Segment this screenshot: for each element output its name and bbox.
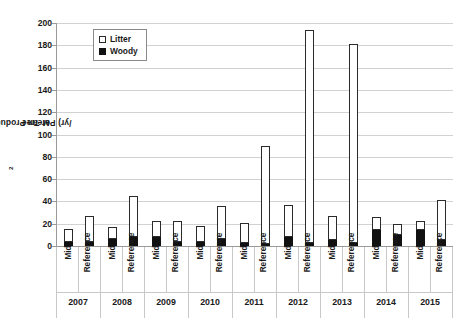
group-separator — [320, 247, 321, 292]
bar-segment-litter — [416, 221, 425, 230]
y-tick-label-20: 20 — [26, 219, 52, 228]
legend-item-litter: Litter — [99, 33, 138, 45]
subcategory-label-2008-mid: Mid — [101, 248, 123, 292]
bar-segment-woody — [372, 230, 381, 246]
y-axis-title: Mean Productivity (g/m2/yr) Per Tree — [2, 0, 24, 246]
chart-container: Mean Productivity (g/m2/yr) Per Tree 020… — [0, 0, 465, 334]
bar-2014-mid — [372, 217, 381, 246]
subcategory-label-text: Reference — [216, 233, 225, 273]
bar-2015-mid — [416, 221, 425, 246]
subcategory-separator — [210, 247, 211, 292]
y-tick-label-160: 160 — [26, 63, 52, 72]
bar-2013-reference — [349, 44, 358, 246]
subcategory-label-text: Mid — [107, 245, 116, 259]
subcategory-label-text: Mid — [327, 245, 336, 259]
year-label-2014: 2014 — [364, 297, 408, 307]
group-separator — [188, 247, 189, 292]
group-separator — [452, 247, 453, 292]
subcategory-label-text: Reference — [304, 233, 313, 273]
bar-2009-mid — [152, 221, 161, 246]
year-label-2015: 2015 — [408, 297, 452, 307]
bar-segment-litter — [305, 30, 314, 243]
bar-segment-litter — [372, 217, 381, 230]
year-label-2009: 2009 — [144, 297, 188, 307]
y-tick-label-180: 180 — [26, 41, 52, 50]
group-separator — [408, 247, 409, 292]
group-separator — [364, 247, 365, 292]
group-separator — [56, 247, 57, 292]
year-label-2012: 2012 — [276, 297, 320, 307]
bar-segment-litter — [328, 216, 337, 241]
subcategory-label-2007-mid: Mid — [57, 248, 79, 292]
subcategory-separator — [386, 247, 387, 292]
y-tick-label-120: 120 — [26, 108, 52, 117]
subcategory-label-text: Mid — [63, 245, 72, 259]
subcategory-label-2009-reference: Reference — [165, 248, 187, 292]
bar-segment-litter — [108, 227, 117, 239]
subcategory-label-text: Reference — [436, 233, 445, 273]
y-tick-label-140: 140 — [26, 86, 52, 95]
bar-segment-litter — [129, 196, 138, 237]
y-axis-tick-labels: 020406080100120140160180200 — [22, 23, 52, 246]
y-axis-title-exponent: 2 — [7, 167, 14, 171]
bar-segment-litter — [284, 205, 293, 237]
legend-label-litter: Litter — [110, 35, 131, 43]
group-separator — [232, 247, 233, 292]
legend-swatch-litter — [99, 36, 106, 43]
year-label-2011: 2011 — [232, 297, 276, 307]
subcategory-label-2015-reference: Reference — [429, 248, 451, 292]
year-label-2013: 2013 — [320, 297, 364, 307]
chart-legend: LitterWoody — [93, 29, 147, 61]
bar-2013-mid — [328, 216, 337, 246]
bar-segment-litter — [196, 226, 205, 242]
subcategory-label-text: Mid — [371, 245, 380, 259]
legend-label-woody: Woody — [110, 47, 138, 55]
subcategory-label-2008-reference: Reference — [121, 248, 143, 292]
year-axis: 200720082009201020112012201320142015 — [56, 292, 453, 318]
subcategory-label-2011-reference: Reference — [253, 248, 275, 292]
y-tick-label-60: 60 — [26, 175, 52, 184]
subcategory-label-2009-mid: Mid — [145, 248, 167, 292]
subcategory-label-text: Mid — [415, 245, 424, 259]
bar-2008-mid — [108, 227, 117, 246]
bar-segment-litter — [152, 221, 161, 237]
subcategory-label-text: Reference — [260, 233, 269, 273]
bar-segment-woody — [416, 230, 425, 246]
subcategory-label-2013-mid: Mid — [321, 248, 343, 292]
subcategory-label-2015-mid: Mid — [409, 248, 431, 292]
subcategory-label-2014-reference: Reference — [385, 248, 407, 292]
bar-2011-reference — [261, 146, 270, 246]
bar-2012-reference — [305, 30, 314, 246]
year-label-2010: 2010 — [188, 297, 232, 307]
year-label-2008: 2008 — [100, 297, 144, 307]
subcategory-label-text: Mid — [283, 245, 292, 259]
subcategory-label-text: Reference — [392, 233, 401, 273]
year-label-2007: 2007 — [56, 297, 100, 307]
subcategory-label-text: Mid — [239, 245, 248, 259]
subcategory-label-2011-mid: Mid — [233, 248, 255, 292]
bar-segment-litter — [349, 44, 358, 242]
y-tick-label-0: 0 — [26, 242, 52, 251]
subcategory-separator — [298, 247, 299, 292]
subcategory-label-2012-mid: Mid — [277, 248, 299, 292]
subcategory-label-2013-reference: Reference — [341, 248, 363, 292]
legend-swatch-woody — [99, 48, 106, 55]
bar-segment-litter — [64, 229, 73, 241]
subcategory-separator — [342, 247, 343, 292]
subcategory-label-2014-mid: Mid — [365, 248, 387, 292]
y-tick-label-100: 100 — [26, 130, 52, 139]
subcategory-label-2012-reference: Reference — [297, 248, 319, 292]
bar-segment-litter — [261, 146, 270, 244]
subcategory-label-text: Reference — [348, 233, 357, 273]
subcategory-label-text: Reference — [172, 233, 181, 273]
subcategory-label-2010-reference: Reference — [209, 248, 231, 292]
bar-2007-mid — [64, 229, 73, 246]
group-separator — [100, 247, 101, 292]
subcategory-label-text: Reference — [84, 233, 93, 273]
subcategory-label-text: Mid — [151, 245, 160, 259]
subcategory-label-2010-mid: Mid — [189, 248, 211, 292]
bar-2010-mid — [196, 226, 205, 246]
legend-item-woody: Woody — [99, 45, 138, 57]
group-separator — [144, 247, 145, 292]
subcategory-separator — [78, 247, 79, 292]
